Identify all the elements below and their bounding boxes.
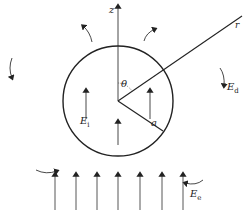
- diagram-canvas: z r a θ Ei Ed Ee: [0, 0, 246, 219]
- internal-field-label: Ei: [79, 115, 90, 129]
- radius-label: a: [151, 117, 157, 128]
- external-field-arrows: [55, 174, 183, 210]
- z-axis-label: z: [108, 4, 115, 15]
- external-field-label: Ee: [189, 188, 201, 202]
- radial-line: [118, 16, 242, 101]
- dipole-field-label: Ed: [226, 81, 239, 95]
- theta-label: θ: [121, 78, 127, 89]
- radial-label: r: [235, 20, 240, 30]
